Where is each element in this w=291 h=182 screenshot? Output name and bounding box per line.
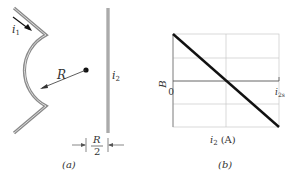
x-tick-label: i2s: [275, 87, 285, 98]
figure-a: i1 R i2 R 2 (a): [12, 8, 124, 170]
radius-label: R: [56, 68, 66, 82]
wire-1: [14, 8, 46, 133]
distance-dimension: R 2: [72, 134, 124, 157]
current-1-label: i1: [12, 23, 20, 37]
current-2-label: i2: [112, 69, 120, 83]
caption-b: (b): [218, 159, 232, 170]
distance-numerator: R: [92, 134, 101, 145]
caption-a: (a): [62, 159, 76, 170]
figure-b: B 0 i2s i2(A) (b): [157, 34, 285, 170]
distance-denominator: 2: [94, 146, 100, 157]
origin-label: 0: [168, 87, 174, 97]
y-axis-label: B: [157, 80, 168, 88]
x-axis-label: i2(A): [210, 134, 236, 147]
